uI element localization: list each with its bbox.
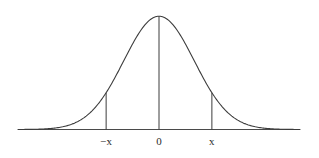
tick-label-x: x [209,135,215,147]
normal-distribution-figure: −x 0 x [0,0,319,158]
tick-label-minus-x: −x [100,135,112,147]
tick-label-zero: 0 [156,135,162,147]
